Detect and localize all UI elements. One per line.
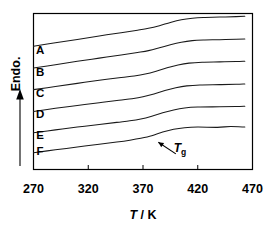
curve-labels-group: ABCDEF bbox=[36, 44, 44, 157]
curve-label-b: B bbox=[36, 66, 44, 78]
x-axis-tick-label: 470 bbox=[242, 182, 263, 196]
dsc-curve-f bbox=[34, 126, 245, 152]
dsc-curves-group bbox=[34, 16, 245, 152]
tg-arrow-head bbox=[158, 142, 164, 147]
curve-label-c: C bbox=[36, 87, 44, 99]
dsc-curve-a bbox=[34, 16, 245, 46]
dsc-thermogram-figure: 270320370420470 ABCDEF Tg Endo. T / K bbox=[0, 0, 278, 231]
x-axis-tick-label: 270 bbox=[23, 182, 44, 196]
y-axis-label: Endo. bbox=[9, 57, 23, 92]
x-axis-tick-label: 320 bbox=[78, 182, 99, 196]
chart-canvas: 270320370420470 ABCDEF Tg Endo. T / K bbox=[0, 0, 278, 231]
x-axis-ticks bbox=[88, 165, 198, 170]
x-axis-tick-label: 420 bbox=[187, 182, 208, 196]
curve-label-f: F bbox=[37, 145, 44, 157]
tg-annotation-label: Tg bbox=[174, 141, 187, 157]
curve-label-e: E bbox=[36, 129, 44, 141]
x-axis-tick-labels: 270320370420470 bbox=[23, 182, 263, 196]
plot-frame bbox=[34, 14, 253, 170]
curve-label-a: A bbox=[36, 44, 44, 56]
dsc-curve-c bbox=[34, 61, 245, 89]
endo-direction-arrow-icon bbox=[16, 89, 24, 166]
dsc-curve-b bbox=[34, 39, 245, 68]
curve-label-d: D bbox=[36, 108, 44, 120]
x-axis-title-units: / K bbox=[137, 208, 156, 222]
dsc-curve-e bbox=[34, 106, 245, 133]
x-axis-title: T / K bbox=[129, 208, 156, 222]
x-axis-tick-label: 370 bbox=[133, 182, 154, 196]
tg-annotation-subscript: g bbox=[181, 147, 186, 157]
